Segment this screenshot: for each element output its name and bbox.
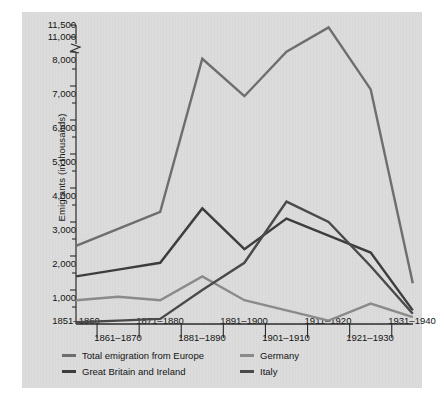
legend-label: Italy	[260, 366, 277, 377]
legend-label: Great Britain and Ireland	[82, 366, 186, 377]
chart-legend: Total emigration from Europe Great Brita…	[22, 12, 422, 388]
legend-swatch-great-britain-ireland	[62, 370, 76, 373]
chart-figure: 11,500 11,000 8,000 7,000 6,000 5,000 4,…	[22, 12, 422, 388]
legend-swatch-italy	[240, 370, 254, 373]
legend-swatch-total-europe	[62, 354, 76, 357]
legend-item-great-britain-ireland: Great Britain and Ireland	[62, 366, 186, 377]
legend-item-total-europe: Total emigration from Europe	[62, 350, 204, 361]
legend-label: Total emigration from Europe	[82, 350, 204, 361]
legend-item-germany: Germany	[240, 350, 299, 361]
legend-item-italy: Italy	[240, 366, 277, 377]
legend-swatch-germany	[240, 354, 254, 357]
legend-label: Germany	[260, 350, 299, 361]
